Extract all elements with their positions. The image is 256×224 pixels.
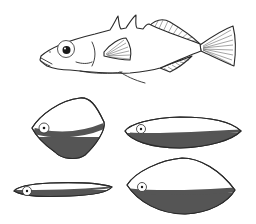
body-shape-deep-fusiform <box>120 158 240 218</box>
shape-pupil <box>43 127 46 130</box>
eye-highlight <box>64 48 66 50</box>
fish-eye <box>58 41 75 58</box>
shape-shading <box>25 137 115 167</box>
shape-shading <box>120 133 245 153</box>
shape-pupil <box>140 128 142 130</box>
body-shape-slender-elongate <box>10 183 115 200</box>
pupil <box>63 46 71 54</box>
figure-canvas <box>0 0 256 224</box>
stickleback-fish <box>40 15 235 83</box>
body-shape-elongate-fusiform <box>120 117 245 153</box>
body-shape-deep-rhombic <box>25 98 115 167</box>
shape-pupil <box>26 190 28 192</box>
nostril <box>49 51 50 52</box>
shape-pupil <box>141 186 143 188</box>
